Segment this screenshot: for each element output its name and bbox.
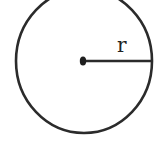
center-point bbox=[80, 57, 86, 66]
circle-outline bbox=[16, 0, 152, 133]
circle-diagram: r bbox=[0, 0, 156, 149]
radius-label: r bbox=[117, 33, 127, 57]
